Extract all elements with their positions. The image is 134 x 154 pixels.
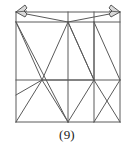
figure-caption: (9) — [0, 128, 134, 142]
truss-member-diag-hub-left-down — [42, 80, 68, 122]
truss-member-diag-hub-left-up — [16, 22, 42, 80]
truss-member-diag-upper-left-long — [16, 22, 68, 122]
truss-diagram — [0, 0, 134, 134]
pin-support-top-left-icon — [16, 5, 27, 17]
truss-member-diag-hub-left-edge — [16, 80, 42, 95]
truss-member-diag-upper-hub-left — [42, 22, 68, 80]
pin-support-top-right-icon — [109, 5, 120, 17]
truss-member-diag-hub-right-up — [68, 22, 94, 80]
truss-member-diag-hub-right-down — [68, 80, 94, 122]
truss-member-diag-right-bay-upper — [94, 22, 120, 80]
members-group — [16, 12, 120, 122]
truss-figure: (9) — [0, 0, 134, 154]
truss-member-diag-hub-left-corner — [16, 80, 42, 122]
